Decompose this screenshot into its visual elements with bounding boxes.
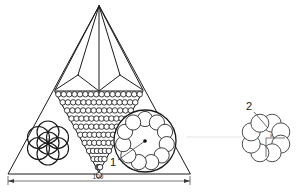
packed-circle [104, 124, 110, 129]
packed-circle [72, 92, 78, 98]
packed-circle [112, 100, 118, 106]
packed-circle [109, 124, 115, 129]
packed-circle [86, 100, 92, 106]
packed-circle [126, 92, 132, 98]
packed-circle [94, 124, 100, 129]
packed-circle [99, 92, 105, 98]
packed-circle [96, 100, 102, 106]
packed-circle [137, 92, 143, 98]
right-strand-group [114, 110, 176, 172]
diameter-symbol: ø [270, 132, 273, 138]
engineering-drawing-svg: 1 ø 2 100 [0, 0, 297, 192]
packed-circle [70, 100, 76, 106]
packed-circle [60, 100, 66, 106]
packed-circle [75, 108, 81, 114]
packed-circle [83, 92, 89, 98]
packed-circle [61, 92, 67, 98]
packed-circle [121, 92, 127, 98]
packed-circle [99, 124, 105, 129]
packed-circle [133, 100, 139, 106]
detail-wire-circle [251, 114, 269, 132]
packed-circle [117, 108, 123, 114]
packed-circle [76, 100, 82, 106]
packed-circle [127, 100, 133, 106]
packed-circle [117, 100, 123, 106]
packed-circle [131, 92, 137, 98]
packed-circle [86, 108, 92, 114]
packed-circle [88, 92, 94, 98]
callout-2-label: 2 [246, 100, 252, 112]
packed-circle [89, 124, 95, 129]
packed-circle [64, 108, 70, 114]
packed-circle [110, 92, 116, 98]
strand-wire-circle [126, 115, 141, 130]
packed-circle [91, 100, 97, 106]
packed-circle [96, 108, 102, 114]
packed-circle [123, 108, 129, 114]
packed-circle [102, 156, 108, 162]
packed-circle [107, 100, 113, 106]
packed-circle [112, 108, 118, 114]
callout-1-label: 1 [110, 156, 116, 168]
dimension-value-label: 100 [93, 173, 104, 180]
packed-circle [78, 124, 84, 129]
packed-circle [65, 100, 71, 106]
packed-circle [77, 92, 83, 98]
packed-circle [70, 108, 76, 114]
packed-circle [66, 92, 72, 98]
packed-circle [80, 108, 86, 114]
packed-circle [94, 92, 100, 98]
packed-circle [104, 92, 110, 98]
packed-circle [107, 108, 113, 114]
packed-circle [83, 124, 89, 129]
packed-circle [81, 100, 87, 106]
packed-circle [106, 148, 112, 154]
packed-circle [91, 108, 97, 114]
packed-circle [102, 108, 108, 114]
technical-drawing-canvas: 1 ø 2 100 [0, 0, 297, 192]
packed-circle [115, 92, 121, 98]
packed-circle [122, 100, 128, 106]
packed-circle [101, 100, 107, 106]
packed-circle [97, 164, 103, 170]
packed-circle [56, 92, 62, 98]
packed-circle [73, 124, 79, 129]
